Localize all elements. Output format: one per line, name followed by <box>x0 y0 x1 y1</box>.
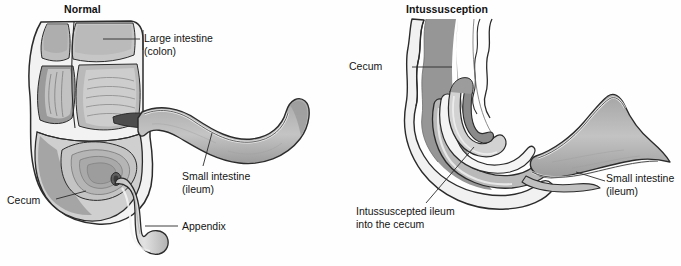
small-intestine-ileum-right <box>530 94 670 177</box>
cecum-pouch <box>35 132 142 221</box>
panel-normal: Normal <box>0 0 340 266</box>
label-cecum: Cecum <box>7 194 40 207</box>
label-small-intestine-right: Small intestine (ileum) <box>606 172 674 197</box>
label-intussuscepted-ileum-line2: into the cecum <box>356 218 455 231</box>
label-intussuscepted-ileum-line1: Intussuscepted ileum <box>356 205 455 218</box>
label-intussuscepted-ileum: Intussuscepted ileum into the cecum <box>356 205 455 230</box>
label-cecum-right-line1: Cecum <box>349 60 382 73</box>
label-small-intestine-right-line1: Small intestine <box>606 172 674 185</box>
label-small-intestine-line1: Small intestine <box>182 170 250 183</box>
label-small-intestine: Small intestine (ileum) <box>182 170 250 195</box>
label-large-intestine-line2: (colon) <box>144 45 213 58</box>
label-cecum-line1: Cecum <box>7 194 40 207</box>
label-large-intestine-line1: Large intestine <box>144 32 213 45</box>
label-small-intestine-line2: (ileum) <box>182 183 250 196</box>
label-cecum-right: Cecum <box>349 60 382 73</box>
small-intestine-ileum <box>138 99 309 164</box>
panel-intussusception: Intussusception <box>340 0 681 266</box>
label-appendix-line1: Appendix <box>182 220 226 233</box>
label-appendix: Appendix <box>182 220 226 233</box>
label-large-intestine: Large intestine (colon) <box>144 32 213 57</box>
intussusception-figure: Normal <box>0 0 681 266</box>
label-small-intestine-right-line2: (ileum) <box>606 185 674 198</box>
